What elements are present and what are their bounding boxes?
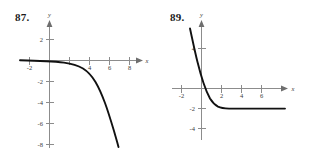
x-tick-label-87-6: 6 xyxy=(108,64,112,71)
y-axis-label-87: y xyxy=(47,11,51,18)
y-tick-label-87-neg2: -2 xyxy=(38,78,43,85)
curve-89 xyxy=(190,29,285,109)
x-tick-label-87-8: 8 xyxy=(128,64,131,71)
curve-87 xyxy=(20,60,119,147)
x-tick-label-89-2: 2 xyxy=(220,92,223,99)
x-axis-label-87: x xyxy=(145,57,149,64)
x-axis-arrow-icon-89 xyxy=(281,86,288,92)
x-axis-label-89: x xyxy=(291,85,295,92)
plot-89: -2 2 4 6 4 -2 -4 x y xyxy=(160,0,317,155)
y-tick-label-89-neg4: -4 xyxy=(190,125,196,132)
y-tick-label-87-neg6: -6 xyxy=(38,120,44,127)
x-axis-arrow-icon-87 xyxy=(136,58,143,64)
y-axis-label-89: y xyxy=(199,11,203,18)
x-tick-label-89-4: 4 xyxy=(240,92,244,99)
y-tick-label-87-neg4: -4 xyxy=(38,99,44,106)
y-tick-label-87-neg8: -8 xyxy=(38,141,43,148)
y-tick-label-89-neg2: -2 xyxy=(190,105,195,112)
y-axis-arrow-icon-87 xyxy=(47,20,53,27)
x-tick-label-87-neg2: -2 xyxy=(27,64,32,71)
plot-87: -2 4 6 8 2 -2 -4 -6 -8 x y xyxy=(0,0,160,155)
figure-89: 89. -2 2 4 6 4 -2 -4 xyxy=(160,0,317,155)
y-axis-arrow-icon-89 xyxy=(199,20,205,27)
figure-page: 87. -2 4 6 8 2 -2 xyxy=(0,0,317,155)
figure-87: 87. -2 4 6 8 2 -2 xyxy=(0,0,160,155)
x-tick-label-89-6: 6 xyxy=(260,92,264,99)
x-tick-label-87-4: 4 xyxy=(88,64,92,71)
x-tick-label-89-neg2: -2 xyxy=(179,92,184,99)
y-tick-label-87-2: 2 xyxy=(40,36,43,43)
